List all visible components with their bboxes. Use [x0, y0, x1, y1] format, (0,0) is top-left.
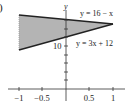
x-tick-label: −1: [14, 93, 23, 103]
y-axis-label: y: [63, 2, 68, 11]
annotation-upper-line: y = 16 − x: [80, 9, 113, 18]
y-tick-label-10: 10: [53, 41, 62, 51]
x-tick-label: −0.5: [34, 93, 49, 103]
x-tick-label: 0.5: [84, 93, 95, 103]
panel-label: ): [0, 1, 3, 14]
x-tick-label: 1: [111, 93, 115, 103]
annotation-lower-line: y = 3x + 12: [76, 39, 113, 48]
chart-plot: ) −1 −0.5 0.5 1 y 10 y = 16 − x y = 3x +…: [0, 0, 127, 104]
